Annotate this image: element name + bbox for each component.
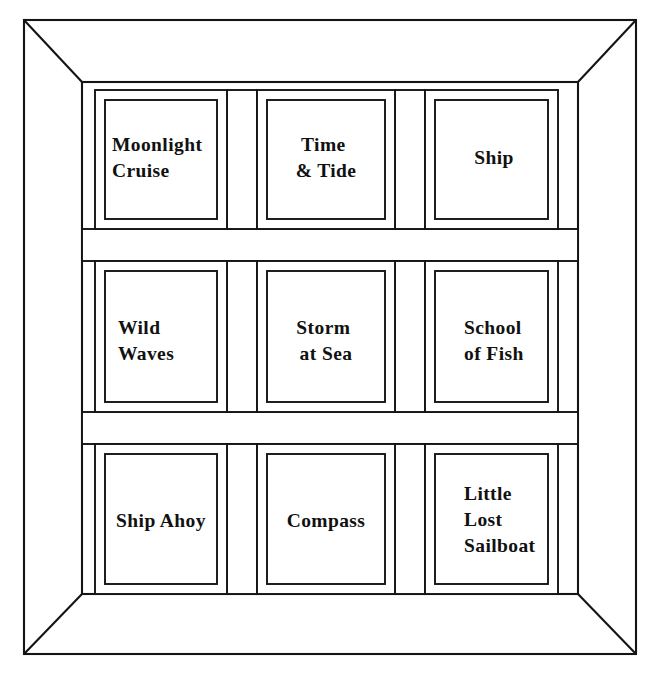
block-label-line: Time [301,134,346,155]
quilt-diagram-canvas: Quilt Layout Diagram Line drawing of a n… [0,0,653,678]
block-label-line: School [464,317,522,338]
block-label-line: Wild [118,317,160,338]
quilt-block-ship-ahoy[interactable]: Ship Ahoy [95,444,227,594]
block-label-line: at Sea [300,343,353,364]
block-label-line: Lost [464,509,503,530]
quilt-block-little-lost-sailboat[interactable]: Little Lost Sailboat [425,444,558,594]
quilt-block-moonlight-cruise[interactable]: Moonlight Cruise [95,90,227,229]
block-label-line: Storm [296,317,350,338]
block-label-line: Ship Ahoy [116,510,206,531]
block-label-line: of Fish [464,343,524,364]
quilt-block-storm-at-sea[interactable]: Storm at Sea [257,261,395,412]
block-label-line: Little [464,483,512,504]
block-label: Compass [287,510,366,531]
block-label: Ship Ahoy [116,510,206,531]
sashing-col-divider-1-row-2 [227,261,257,412]
block-label-line: Waves [118,343,174,364]
quilt-block-wild-waves[interactable]: Wild Waves [95,261,227,412]
quilt-block-compass[interactable]: Compass [257,444,395,594]
block-label-line: Compass [287,510,366,531]
quilt-layout-diagram: Quilt Layout Diagram Line drawing of a n… [0,0,653,678]
quilt-block-ship[interactable]: Ship [425,90,558,229]
sashing-col-divider-1-row-1 [227,90,257,229]
quilt-block-school-of-fish[interactable]: School of Fish [425,261,558,412]
block-label-line: Moonlight [112,134,202,155]
block-label-line: Ship [474,147,514,168]
sashing-row-divider-1 [82,229,578,261]
block-label-line: & Tide [296,160,357,181]
block-label: Ship [474,147,514,168]
block-label-line: Sailboat [464,535,536,556]
sashing-col-divider-2-row-3 [395,444,425,594]
sashing-col-divider-1-row-3 [227,444,257,594]
sashing-col-divider-2-row-2 [395,261,425,412]
sashing-row-divider-2 [82,412,578,444]
sashing-col-divider-2-row-1 [395,90,425,229]
quilt-block-time-and-tide[interactable]: Time & Tide [257,90,395,229]
block-label-line: Cruise [112,160,170,181]
